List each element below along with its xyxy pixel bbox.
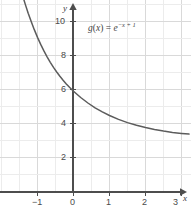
x-axis (0, 188, 187, 196)
function-annotation: g(x) = e−x + 1 (88, 24, 136, 34)
x-tick-label-0: 0 (70, 198, 75, 207)
x-axis-label: x (183, 194, 187, 203)
function-exponent: −x + 1 (118, 21, 136, 28)
function-equals: = (106, 23, 111, 33)
x-tick-label-1: 1 (106, 198, 111, 207)
y-tick-label-2: 2 (61, 153, 66, 162)
y-axis-label: y (63, 4, 67, 13)
y-tick-label-4: 4 (61, 119, 66, 128)
x-tick-label-2: 2 (142, 198, 147, 207)
y-tick-label-8: 8 (61, 51, 66, 60)
y-tick-label-6: 6 (61, 85, 66, 94)
function-plot-figure: 10 8 6 4 2 −1 0 1 2 3 y x g(x) = e−x + 1 (0, 0, 191, 208)
function-close-paren: ) (100, 23, 103, 33)
x-tick-label-3: 3 (173, 198, 178, 207)
grid-minor-vertical (2, 0, 164, 192)
y-axis (69, 3, 76, 192)
y-tick-label-10: 10 (55, 17, 65, 26)
x-tick-label-neg1: −1 (32, 198, 42, 207)
grid-major-horizontal (0, 22, 191, 158)
